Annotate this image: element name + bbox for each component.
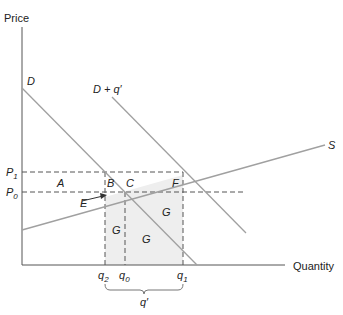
region-c-label: C: [126, 177, 134, 189]
region-a-label: A: [56, 177, 64, 189]
region-e-label: E: [80, 197, 88, 209]
q0-label: q0: [119, 269, 130, 284]
q-prime-bracket: [105, 284, 183, 294]
y-axis-label: Price: [4, 12, 29, 24]
supply-label: S: [328, 139, 336, 151]
shifted-demand-label: D + q′: [93, 83, 123, 95]
q2-label: q2: [98, 269, 109, 284]
x-axis-label: Quantity: [293, 260, 334, 272]
economics-diagram: Price Quantity D D + q′ S P1 P0 q2 q0 q1…: [0, 0, 343, 315]
p1-label: P1: [6, 166, 18, 181]
q-prime-bracket-label: q′: [140, 296, 149, 308]
region-g-label-3: G: [162, 206, 171, 218]
p0-label: P0: [6, 186, 18, 201]
region-g-label-1: G: [112, 224, 121, 236]
demand-label: D: [27, 75, 35, 87]
q1-label: q1: [177, 269, 188, 284]
region-b-label: B: [107, 177, 114, 189]
region-g-label-2: G: [142, 233, 151, 245]
